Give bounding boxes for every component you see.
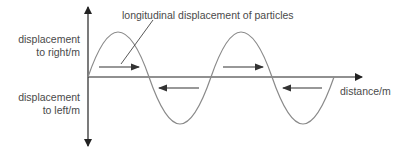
longitudinal-wave-diagram: displacement to right/m displacement to … — [0, 0, 411, 153]
y-positive-label-line2: to right/m — [18, 46, 80, 59]
y-axis-positive-label: displacement to right/m — [18, 33, 80, 59]
annotation-label: longitudinal displacement of particles — [122, 9, 294, 22]
wave-graph — [0, 0, 411, 153]
annotation-pointer-line — [121, 20, 153, 64]
x-axis-label: distance/m — [340, 85, 391, 98]
y-negative-label-line2: to left/m — [18, 104, 80, 117]
wave-curve — [88, 32, 334, 124]
y-positive-label-line1: displacement — [18, 33, 80, 46]
y-negative-label-line1: displacement — [18, 91, 80, 104]
y-axis-negative-label: displacement to left/m — [18, 91, 80, 117]
